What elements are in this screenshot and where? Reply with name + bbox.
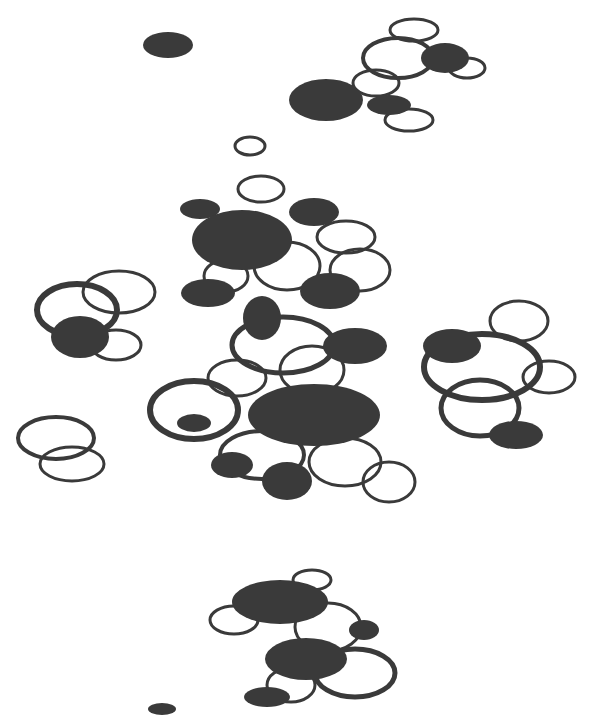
filled-ellipse — [367, 95, 411, 115]
filled-ellipse — [262, 462, 312, 500]
filled-ellipse — [181, 279, 235, 307]
filled-ellipse — [51, 316, 109, 358]
filled-ellipse — [148, 703, 176, 715]
filled-ellipse — [143, 32, 193, 58]
filled-ellipse — [421, 43, 469, 73]
filled-ellipse — [211, 452, 253, 478]
filled-ellipse — [248, 384, 380, 446]
filled-ellipse — [244, 687, 290, 707]
filled-ellipse — [232, 580, 328, 624]
filled-ellipse — [300, 273, 360, 309]
filled-ellipse — [289, 79, 363, 121]
filled-ellipse — [243, 296, 281, 340]
filled-ellipse — [489, 421, 543, 449]
filled-ellipse — [323, 328, 387, 364]
filled-ellipse — [349, 620, 379, 640]
abstract-ellipse-pattern — [0, 0, 601, 720]
filled-ellipse — [192, 210, 292, 270]
filled-ellipse — [177, 414, 211, 432]
filled-ellipse — [289, 198, 339, 226]
filled-ellipse — [423, 329, 481, 363]
filled-ellipse — [265, 638, 347, 680]
